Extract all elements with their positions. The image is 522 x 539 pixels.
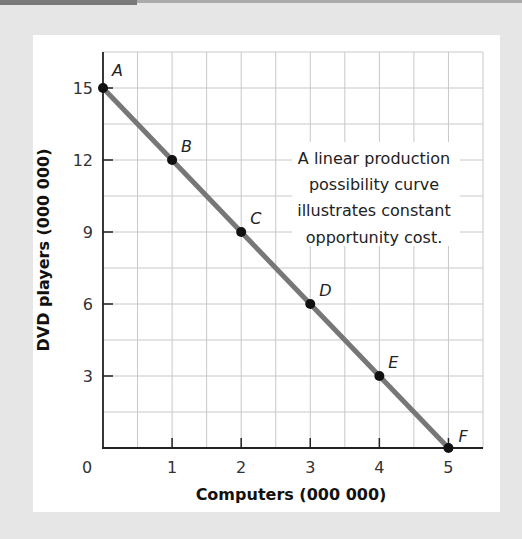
data-point-b: [167, 155, 177, 165]
y-tick-label: 15: [73, 79, 93, 98]
annotation-line: possibility curve: [309, 175, 439, 194]
x-tick-label: 5: [443, 458, 453, 477]
point-label-f: F: [458, 427, 468, 446]
point-label-d: D: [319, 281, 331, 300]
point-label-a: A: [111, 61, 123, 80]
x-axis-title: Computers (000 000): [196, 485, 387, 504]
y-tick-label: 12: [73, 151, 93, 170]
data-point-f: [443, 443, 453, 453]
point-label-b: B: [181, 137, 192, 156]
axes: 3691215012345: [73, 52, 483, 477]
annotation-line: A linear production: [298, 149, 450, 168]
data-point-c: [236, 227, 246, 237]
data-point-a: [98, 83, 108, 93]
x-tick-label: 1: [167, 458, 177, 477]
data-point-d: [305, 299, 315, 309]
y-tick-label: 6: [83, 295, 93, 314]
grid: [103, 52, 483, 448]
point-label-e: E: [388, 353, 399, 372]
x-tick-label: 0: [82, 458, 92, 477]
y-tick-label: 9: [83, 223, 93, 242]
y-tick-label: 3: [83, 367, 93, 386]
x-tick-label: 4: [374, 458, 384, 477]
y-axis-title: DVD players (000 000): [34, 148, 53, 351]
series: ABCDEF: [98, 61, 468, 453]
x-tick-label: 3: [305, 458, 315, 477]
ppc-chart: 3691215012345 ABCDEF A linear production…: [0, 0, 522, 539]
data-point-e: [374, 371, 384, 381]
point-label-c: C: [250, 209, 262, 228]
annotation-line: illustrates constant: [297, 201, 451, 220]
annotation-line: opportunity cost.: [306, 228, 443, 247]
x-tick-label: 2: [236, 458, 246, 477]
